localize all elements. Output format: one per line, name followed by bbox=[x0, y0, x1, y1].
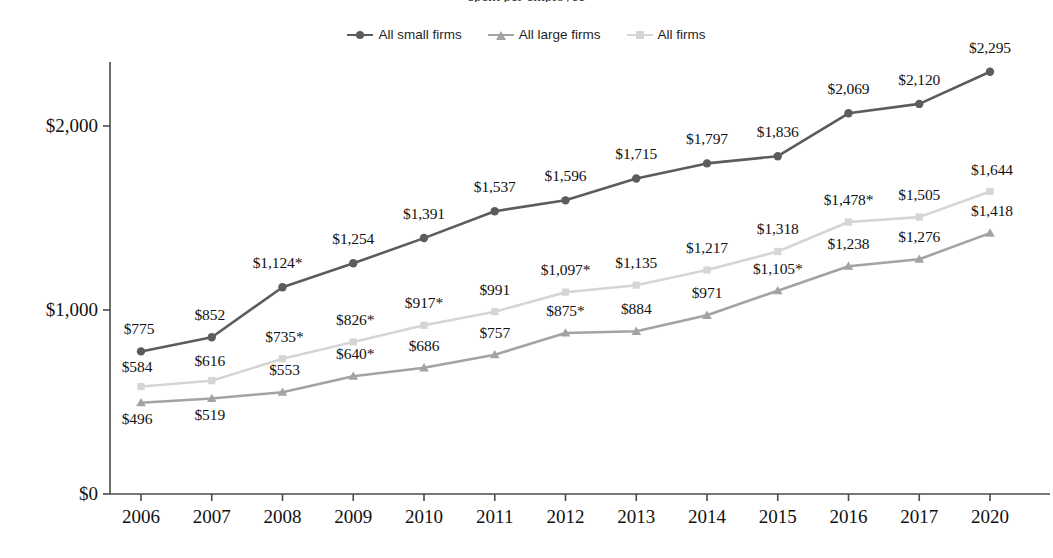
data-label: $735* bbox=[265, 328, 303, 346]
data-label: $884 bbox=[621, 300, 652, 318]
data-label: $1,097* bbox=[541, 261, 591, 279]
data-label: $1,238 bbox=[827, 235, 869, 253]
data-label: $1,217 bbox=[686, 239, 728, 257]
data-label: $991 bbox=[479, 281, 510, 299]
data-label: $826* bbox=[336, 311, 374, 329]
data-label: $1,254 bbox=[332, 230, 374, 248]
x-tick-label: 2015 bbox=[759, 506, 797, 528]
x-tick-label: 2017 bbox=[900, 506, 938, 528]
data-label: $1,505 bbox=[898, 186, 940, 204]
x-tick-label: 2009 bbox=[334, 506, 372, 528]
data-label: $686 bbox=[409, 337, 440, 355]
series-all-firms bbox=[137, 188, 993, 390]
x-tick-label: 2014 bbox=[688, 506, 726, 528]
data-label: $852 bbox=[194, 306, 225, 324]
chart-root: spent per employee All small firmsAll la… bbox=[0, 0, 1053, 558]
x-tick-label: 2007 bbox=[193, 506, 231, 528]
x-tick-label: 2006 bbox=[122, 506, 160, 528]
data-label: $640* bbox=[336, 345, 374, 363]
data-label: $875* bbox=[546, 302, 584, 320]
y-tick-label: $0 bbox=[79, 483, 98, 505]
plot-canvas bbox=[0, 0, 1053, 558]
data-label: $917* bbox=[405, 294, 443, 312]
x-tick-label: 2010 bbox=[405, 506, 443, 528]
data-label: $757 bbox=[479, 324, 510, 342]
data-label: $1,124* bbox=[253, 254, 303, 272]
data-label: $1,318 bbox=[757, 220, 799, 238]
data-label: $1,105* bbox=[753, 260, 803, 278]
data-label: $1,797 bbox=[686, 130, 728, 148]
data-label: $1,836 bbox=[757, 123, 799, 141]
data-label: $496 bbox=[122, 410, 153, 428]
y-tick-label: $2,000 bbox=[46, 115, 98, 137]
data-label: $775 bbox=[124, 320, 155, 338]
data-label: $971 bbox=[692, 284, 723, 302]
data-label: $1,596 bbox=[544, 167, 586, 185]
data-label: $1,478* bbox=[824, 191, 874, 209]
data-label: $2,120 bbox=[898, 71, 940, 89]
x-tick-label: 2013 bbox=[617, 506, 655, 528]
data-label: $616 bbox=[194, 352, 225, 370]
data-label: $553 bbox=[269, 361, 300, 379]
x-tick-label: 2012 bbox=[547, 506, 585, 528]
y-tick-label: $1,000 bbox=[46, 299, 98, 321]
data-label: $1,135 bbox=[615, 254, 657, 272]
data-label: $1,644 bbox=[971, 161, 1013, 179]
x-tick-label: 2008 bbox=[264, 506, 302, 528]
x-tick-label: 2011 bbox=[476, 506, 513, 528]
data-label: $2,069 bbox=[827, 80, 869, 98]
x-tick-label: 2020 bbox=[971, 506, 1009, 528]
data-label: $2,295 bbox=[969, 39, 1011, 57]
data-label: $1,537 bbox=[474, 178, 516, 196]
data-label: $1,418 bbox=[971, 202, 1013, 220]
data-label: $584 bbox=[122, 358, 153, 376]
data-label: $519 bbox=[194, 406, 225, 424]
x-tick-label: 2016 bbox=[830, 506, 868, 528]
data-label: $1,715 bbox=[615, 145, 657, 163]
data-label: $1,391 bbox=[403, 205, 445, 223]
data-label: $1,276 bbox=[898, 228, 940, 246]
